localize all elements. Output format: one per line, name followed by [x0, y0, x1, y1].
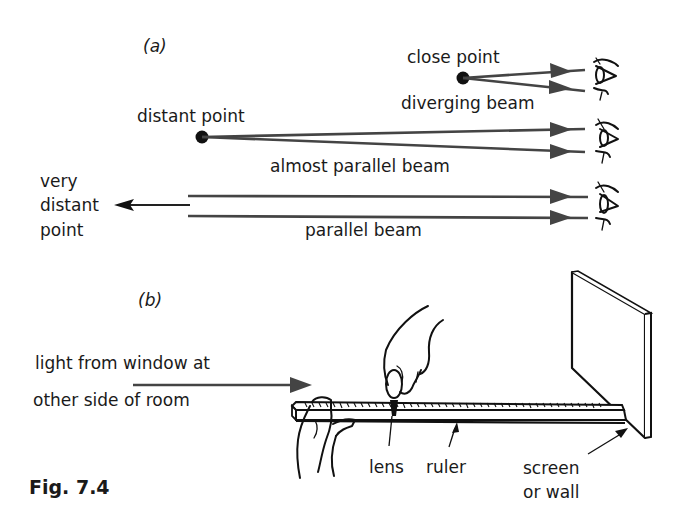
hand-holding-lens-icon	[384, 306, 443, 398]
part-b-label: (b)	[138, 290, 162, 310]
arrowhead-icon	[550, 189, 572, 204]
light-label-line-1: light from window at	[35, 353, 210, 373]
eye-icon	[596, 182, 618, 230]
arrowhead-icon	[550, 210, 572, 225]
screen-pointer-line	[588, 432, 624, 454]
almost-parallel-ray-upper	[202, 129, 585, 137]
parallel-beam-row: very distant point parallel beam	[40, 171, 618, 240]
parallel-beam-label: parallel beam	[305, 220, 422, 240]
part-a-label: (a)	[143, 36, 167, 56]
distant-point-label: distant point	[137, 106, 245, 126]
eye-icon	[596, 119, 618, 163]
very-distant-point-label-line-1: very	[40, 171, 78, 191]
very-distant-point-label-line-2: distant	[40, 195, 99, 215]
arrowhead-icon	[290, 377, 312, 393]
screen-label-line-1: screen	[523, 458, 580, 478]
almost-parallel-ray-lower	[202, 137, 585, 152]
diverging-beam-row: close point diverging beam	[401, 47, 618, 113]
figure-7-4: (a) close point diverging beam distant p…	[0, 0, 682, 531]
screen-label-line-2: or wall	[523, 482, 580, 502]
lens-label: lens	[369, 457, 404, 477]
arrowhead-icon	[550, 63, 572, 78]
almost-parallel-beam-label: almost parallel beam	[270, 156, 450, 176]
parallel-ray-lower	[188, 216, 588, 218]
close-point-label: close point	[407, 47, 500, 67]
ruler-label: ruler	[426, 457, 466, 477]
ruler-pointer-arrowhead-icon	[452, 422, 459, 433]
arrowhead-icon	[549, 80, 572, 94]
light-label-line-2: other side of room	[33, 390, 190, 410]
almost-parallel-beam-row: distant point almost parallel beam	[137, 106, 618, 176]
arrowhead-icon	[550, 122, 572, 137]
figure-number: Fig. 7.4	[29, 476, 110, 498]
very-distant-point-label-line-3: point	[40, 220, 84, 240]
eye-icon	[594, 58, 618, 100]
diverging-beam-label: diverging beam	[401, 93, 534, 113]
arrowhead-icon	[550, 144, 572, 159]
parallel-ray-upper	[188, 196, 588, 197]
